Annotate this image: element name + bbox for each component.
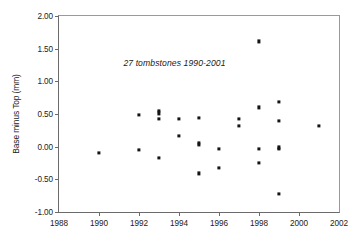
- data-point: [317, 124, 320, 127]
- x-tick-label: 1990: [90, 219, 108, 228]
- y-tick-label: 1.00: [37, 77, 53, 86]
- x-tick-mark: [259, 212, 260, 216]
- data-point: [217, 166, 220, 169]
- x-tick-mark: [179, 212, 180, 216]
- x-tick-label: 1996: [210, 219, 228, 228]
- data-point: [157, 112, 160, 115]
- x-tick-label: 1998: [250, 219, 268, 228]
- data-point: [257, 106, 260, 109]
- data-point: [237, 124, 240, 127]
- data-point: [257, 40, 260, 43]
- data-point: [97, 152, 100, 155]
- data-point: [257, 161, 260, 164]
- x-tick-label: 2002: [330, 219, 348, 228]
- y-tick-label: -1.00: [35, 208, 53, 217]
- data-point: [197, 143, 200, 146]
- data-point: [197, 172, 200, 175]
- x-tick-label: 1988: [50, 219, 68, 228]
- data-point: [197, 116, 200, 119]
- data-point: [157, 118, 160, 121]
- data-point: [257, 148, 260, 151]
- plot-area: -1.00-0.500.000.501.001.502.00 198819901…: [58, 15, 340, 213]
- y-tick-mark: [55, 212, 59, 213]
- data-point: [217, 147, 220, 150]
- data-points-layer: [59, 16, 339, 212]
- data-point: [277, 101, 280, 104]
- x-tick-mark: [299, 212, 300, 216]
- y-tick-label: 2.00: [37, 12, 53, 21]
- x-tick-label: 1994: [170, 219, 188, 228]
- x-tick-label: 1992: [130, 219, 148, 228]
- y-tick-label: 1.50: [37, 44, 53, 53]
- y-tick-label: -0.50: [35, 175, 53, 184]
- data-point: [237, 118, 240, 121]
- x-tick-mark: [139, 212, 140, 216]
- data-point: [177, 118, 180, 121]
- data-point: [277, 148, 280, 151]
- y-axis-title-label: Base minus Top (mm): [11, 74, 21, 153]
- y-tick-label: 0.50: [37, 110, 53, 119]
- plot-annotation: 27 tombstones 1990-2001: [123, 58, 225, 68]
- data-point: [277, 119, 280, 122]
- x-tick-label: 2000: [290, 219, 308, 228]
- y-axis-title: Base minus Top (mm): [9, 15, 23, 213]
- data-point: [157, 156, 160, 159]
- y-tick-label: 0.00: [37, 142, 53, 151]
- data-point: [277, 192, 280, 195]
- data-point: [137, 148, 140, 151]
- data-point: [177, 135, 180, 138]
- data-point: [137, 114, 140, 117]
- scatter-chart-figure: Base minus Top (mm) -1.00-0.500.000.501.…: [0, 0, 354, 249]
- x-tick-mark: [219, 212, 220, 216]
- x-tick-mark: [99, 212, 100, 216]
